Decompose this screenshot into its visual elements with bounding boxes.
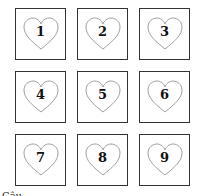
card-8[interactable]: 8 <box>77 134 128 186</box>
card-9[interactable]: 9 <box>139 134 190 186</box>
card-4[interactable]: 4 <box>15 71 66 123</box>
card-5[interactable]: 5 <box>77 71 128 123</box>
card-number: 5 <box>78 87 127 102</box>
card-number: 3 <box>140 24 189 39</box>
card-number: 8 <box>78 150 127 165</box>
card-number: 7 <box>16 150 65 165</box>
card-number: 2 <box>78 24 127 39</box>
card-number: 6 <box>140 87 189 102</box>
card-2[interactable]: 2 <box>77 8 128 60</box>
footer-text: Câu ... <box>2 190 35 196</box>
card-7[interactable]: 7 <box>15 134 66 186</box>
card-number: 1 <box>16 24 65 39</box>
card-number: 4 <box>16 87 65 102</box>
card-number: 9 <box>140 150 189 165</box>
card-6[interactable]: 6 <box>139 71 190 123</box>
card-3[interactable]: 3 <box>139 8 190 60</box>
card-1[interactable]: 1 <box>15 8 66 60</box>
